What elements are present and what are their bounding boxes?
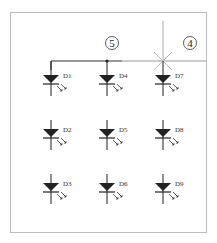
diode-label: D2 (63, 126, 72, 134)
diode-label: D9 (175, 180, 184, 188)
diode-label: D1 (63, 72, 72, 80)
svg-text:4: 4 (187, 37, 193, 49)
diode-label: D7 (175, 72, 184, 80)
diode-label: D4 (119, 72, 128, 80)
led-matrix-diagram: 5 4 D1D2D3D4D5D6D7D8D9 (0, 0, 217, 243)
svg-text:5: 5 (109, 37, 115, 49)
diode-label: D6 (119, 180, 128, 188)
diode-label: D5 (119, 126, 128, 134)
diode-label: D3 (63, 180, 72, 188)
diode-label: D8 (175, 126, 184, 134)
